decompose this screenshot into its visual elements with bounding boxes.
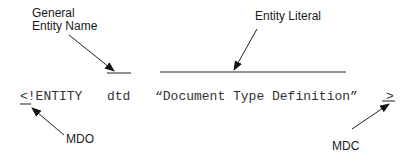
entity-literal-label: Entity Literal [255,10,321,23]
general-entity-name-arrow [69,35,131,73]
general-entity-name-line2: Entity Name [32,20,97,33]
entity-literal-token: “Document Type Definition” [155,90,358,104]
entity-literal-arrow [160,29,346,72]
mdc-label: MDC [332,140,359,153]
mdc-arrow [352,101,395,129]
mdo-token: <!ENTITY [20,90,82,104]
entity-declaration-diagram: General Entity Name Entity Literal MDO M… [0,0,414,158]
mdo-arrow [20,104,64,135]
general-entity-name-label: General Entity Name [32,7,97,33]
mdc-token: > [386,90,394,104]
entity-name-token: dtd [107,90,130,104]
mdo-label: MDO [66,133,94,146]
